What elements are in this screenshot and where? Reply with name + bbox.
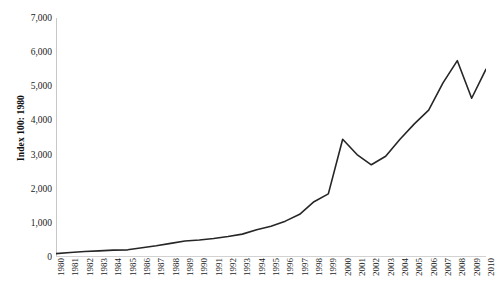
- y-axis-tick-label: 3,000: [14, 150, 52, 160]
- y-axis-tick-label: 0: [14, 252, 52, 262]
- x-axis-tick-label: 2004: [393, 258, 407, 302]
- x-axis-tick-label: 1992: [221, 258, 235, 302]
- plot-area: [56, 18, 486, 257]
- x-axis-tick-label: 1989: [178, 258, 192, 302]
- x-axis-tick-label: 1994: [250, 258, 264, 302]
- x-axis-tick-label: 1988: [164, 258, 178, 302]
- x-axis-tick-label: 2005: [407, 258, 421, 302]
- y-axis-tick-label: 1,000: [14, 218, 52, 228]
- x-axis-tick-label: 2001: [350, 258, 364, 302]
- x-axis-tick-label: 1984: [106, 258, 120, 302]
- x-axis-tick-label-text: 2010: [486, 258, 496, 276]
- x-axis-tick-label: 1982: [78, 258, 92, 302]
- y-axis-tick-label: 6,000: [14, 47, 52, 57]
- y-axis-tick-label: 5,000: [14, 81, 52, 91]
- y-axis-tick-labels: 01,0002,0003,0004,0005,0006,0007,000: [12, 0, 52, 306]
- x-axis-tick-label: 1997: [293, 258, 307, 302]
- x-axis-tick-label: 1985: [121, 258, 135, 302]
- x-axis-tick-label: 2010: [479, 258, 493, 302]
- x-axis-tick-label: 1991: [207, 258, 221, 302]
- x-axis-tick-label: 1999: [321, 258, 335, 302]
- x-axis-tick-label: 2003: [379, 258, 393, 302]
- x-axis-tick-label: 1980: [49, 258, 63, 302]
- x-axis-tick-label: 1987: [149, 258, 163, 302]
- x-axis-tick-label: 2006: [422, 258, 436, 302]
- x-axis-tick-label: 2007: [436, 258, 450, 302]
- x-axis-tick-label: 2000: [336, 258, 350, 302]
- x-axis-tick-label: 1986: [135, 258, 149, 302]
- x-axis-tick-label: 1996: [278, 258, 292, 302]
- y-axis-tick-label: 2,000: [14, 184, 52, 194]
- data-series-line: [56, 18, 486, 257]
- x-axis-tick-label: 1990: [192, 258, 206, 302]
- x-axis-tick-labels: 1980198119821983198419851986198719881989…: [56, 258, 486, 306]
- y-axis-tick-label: 7,000: [14, 13, 52, 23]
- x-axis-tick-label: 1981: [63, 258, 77, 302]
- series-index-polyline: [56, 61, 486, 254]
- x-axis-tick-label: 1983: [92, 258, 106, 302]
- x-axis-tick-label: 1998: [307, 258, 321, 302]
- x-axis-tick-label: 2008: [450, 258, 464, 302]
- x-axis-tick-label: 1995: [264, 258, 278, 302]
- y-axis-tick-label: 4,000: [14, 115, 52, 125]
- x-axis-tick-label: 1993: [235, 258, 249, 302]
- x-axis-tick-label: 2009: [465, 258, 479, 302]
- x-axis-tick-label: 2002: [364, 258, 378, 302]
